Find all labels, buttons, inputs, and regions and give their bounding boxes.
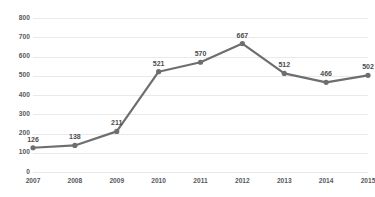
- x-axis-tick-label: 2007: [26, 178, 41, 185]
- data-point-label: 138: [69, 133, 81, 140]
- data-point-marker: [30, 145, 35, 150]
- data-point-label: 521: [153, 60, 165, 67]
- data-point-marker: [324, 80, 329, 85]
- data-point-marker: [365, 73, 370, 78]
- x-axis-tick-label: 2015: [361, 178, 375, 185]
- gridline: [33, 172, 368, 173]
- y-axis-tick-label: 700: [4, 34, 30, 41]
- y-axis-tick-label: 300: [4, 111, 30, 118]
- data-point-label: 570: [195, 50, 207, 57]
- data-point-label: 211: [111, 119, 122, 126]
- plot-area: 126138211521570667512466502: [33, 18, 368, 172]
- data-point-label: 512: [278, 61, 290, 68]
- y-axis: 0100200300400500600700800: [0, 18, 30, 172]
- data-point-marker: [282, 71, 287, 76]
- data-point-label: 126: [27, 136, 39, 143]
- series-line: [33, 18, 368, 172]
- y-axis-tick-label: 0: [4, 169, 30, 176]
- x-axis-tick-label: 2008: [68, 178, 83, 185]
- y-axis-tick-label: 400: [4, 92, 30, 99]
- data-point-label: 667: [237, 32, 249, 39]
- x-axis-tick-label: 2010: [151, 178, 166, 185]
- x-axis-tick-label: 2014: [319, 178, 334, 185]
- x-axis-tick-label: 2012: [235, 178, 250, 185]
- line-chart: 0100200300400500600700800 12613821152157…: [0, 0, 375, 197]
- x-axis-tick-label: 2013: [277, 178, 292, 185]
- data-point-marker: [198, 60, 203, 65]
- data-point-label: 502: [362, 63, 374, 70]
- y-axis-tick-label: 600: [4, 53, 30, 60]
- data-point-marker: [72, 143, 77, 148]
- y-axis-tick-label: 100: [4, 149, 30, 156]
- x-axis-tick-label: 2009: [109, 178, 124, 185]
- y-axis-tick-label: 500: [4, 72, 30, 79]
- data-point-label: 466: [320, 70, 332, 77]
- data-point-marker: [240, 41, 245, 46]
- y-axis-tick-label: 200: [4, 130, 30, 137]
- data-point-marker: [156, 69, 161, 74]
- data-point-marker: [114, 129, 119, 134]
- y-axis-tick-label: 800: [4, 15, 30, 22]
- x-axis-tick-label: 2011: [193, 178, 207, 185]
